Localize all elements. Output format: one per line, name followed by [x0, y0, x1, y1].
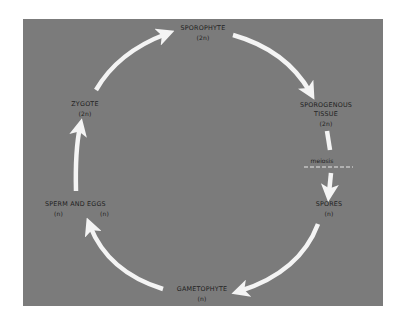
- arrow-sporophyte-to-sporogenous: [233, 35, 310, 92]
- node-sperm-and-eggs: SPERM AND EGGS (n) (n): [45, 200, 106, 218]
- zygote-label: ZYGOTE: [71, 100, 98, 108]
- sporophyte-ploidy: (2n): [181, 33, 226, 42]
- meiosis-label: meiosis: [311, 157, 334, 164]
- spores-label: SPORES: [316, 200, 343, 208]
- arrow-meiosis-to-spores: [329, 173, 331, 193]
- arrow-gametophyte-to-gametes: [90, 226, 163, 289]
- arrow-zygote-to-sporophyte: [96, 34, 166, 90]
- gametophyte-ploidy: (n): [177, 294, 228, 303]
- node-zygote: ZYGOTE (2n): [71, 100, 98, 118]
- gametophyte-label: GAMETOPHYTE: [177, 285, 228, 293]
- sporophyte-label: SPOROPHYTE: [181, 24, 226, 32]
- node-sporophyte: SPOROPHYTE (2n): [181, 24, 226, 42]
- sporogenous-label-line1: SPOROGENOUS: [300, 101, 352, 110]
- arrow-sporogenous-stub: [327, 131, 330, 150]
- node-sporogenous-tissue: SPOROGENOUS TISSUE (2n): [300, 101, 352, 128]
- arrow-gametes-to-zygote: [76, 127, 80, 191]
- sporogenous-label-line2: TISSUE: [300, 110, 352, 119]
- sperm-ploidy: (n): [54, 209, 63, 218]
- arrow-spores-to-gametophyte: [240, 224, 318, 291]
- zygote-ploidy: (2n): [71, 109, 98, 118]
- eggs-ploidy: (n): [100, 209, 109, 218]
- node-spores: SPORES (n): [316, 200, 343, 218]
- node-gametophyte: GAMETOPHYTE (n): [177, 285, 228, 303]
- sperm-and-eggs-label: SPERM AND EGGS: [45, 200, 106, 208]
- cycle-arrows: [0, 0, 402, 321]
- spores-ploidy: (n): [316, 209, 343, 218]
- sporogenous-ploidy: (2n): [300, 119, 352, 128]
